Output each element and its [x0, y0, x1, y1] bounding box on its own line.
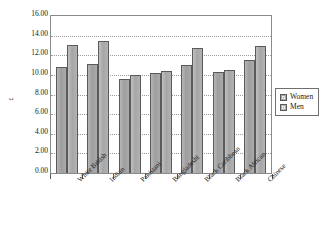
bar-chart: £ 16.0014.0012.0010.008.006.004.002.000.…: [0, 0, 335, 232]
bar-men: [130, 75, 141, 173]
y-axis-tick-label: 4.00: [18, 127, 48, 134]
x-axis-category-label: Chinese: [266, 178, 272, 184]
y-axis-tick-label: 6.00: [18, 108, 48, 115]
bar-women: [244, 60, 255, 173]
bar-group: [114, 16, 145, 173]
bar-group: [51, 16, 82, 173]
bar-group: [240, 16, 271, 173]
legend-item-label: Women: [290, 93, 313, 101]
y-axis-title: £: [8, 92, 14, 106]
bar-group: [82, 16, 113, 173]
x-axis-category-label: Pakistani: [139, 178, 145, 184]
bar-women: [119, 79, 130, 173]
legend-item: Men: [280, 102, 313, 112]
bar-men: [161, 71, 172, 173]
bar-women: [150, 73, 161, 173]
legend-item: Women: [280, 92, 313, 102]
x-axis-category-label: Black Caribbean: [203, 178, 209, 184]
y-axis-tick-label: 0.00: [18, 167, 48, 174]
x-axis-category-label: Black African: [234, 178, 240, 184]
legend: WomenMen: [275, 88, 319, 116]
bar-women: [56, 67, 67, 173]
y-axis-tick-label: 14.00: [18, 29, 48, 36]
x-axis-category-label: Indian: [108, 178, 114, 184]
y-axis-tick-label: 2.00: [18, 147, 48, 154]
bar-group: [177, 16, 208, 173]
x-axis-category-labels: White BritishIndianPakistaniBangladeshiB…: [50, 178, 272, 232]
x-axis-category-label: White British: [76, 178, 82, 184]
x-axis-category-label: Bangladeshi: [171, 178, 177, 184]
y-axis-tick-label: 16.00: [18, 10, 48, 17]
y-axis-tick-label: 10.00: [18, 68, 48, 75]
bar-group: [145, 16, 176, 173]
legend-item-label: Men: [290, 103, 304, 111]
legend-swatch-men-icon: [280, 104, 287, 111]
legend-swatch-women-icon: [280, 94, 287, 101]
y-axis-tick-labels: 16.0014.0012.0010.008.006.004.002.000.00: [18, 12, 48, 174]
y-axis-tick-label: 8.00: [18, 88, 48, 95]
bar-men: [67, 45, 78, 173]
y-axis-tick-label: 12.00: [18, 49, 48, 56]
